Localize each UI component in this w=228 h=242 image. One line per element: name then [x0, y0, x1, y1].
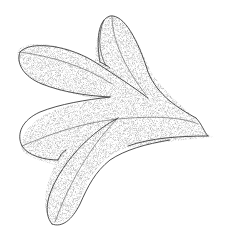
leaf-illustration [0, 0, 228, 242]
leaf-drawing [0, 0, 228, 242]
